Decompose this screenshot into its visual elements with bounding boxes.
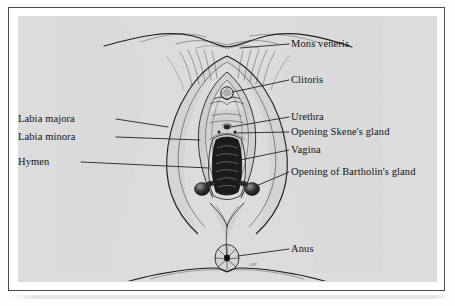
figure-plate: ART Mons veneris Clitoris Urethra Openin…	[0, 0, 455, 306]
label-mons-veneris: Mons veneris	[291, 38, 349, 49]
label-labia-majora: Labia majora	[18, 113, 75, 124]
label-labia-minora: Labia minora	[18, 131, 75, 142]
perineum-shading	[208, 200, 246, 240]
label-opening-skenes-gland: Opening Skene's gland	[291, 126, 389, 137]
vaginal-opening	[212, 137, 242, 195]
label-urethra: Urethra	[291, 111, 324, 122]
anatomical-drawing: ART	[0, 0, 455, 306]
label-anus: Anus	[291, 243, 314, 254]
label-hymen: Hymen	[18, 156, 49, 167]
anus	[215, 245, 239, 272]
label-opening-bartholins-gland: Opening of Bartholin's gland	[291, 166, 416, 177]
label-clitoris: Clitoris	[291, 74, 323, 85]
artist-signature: ART	[249, 262, 258, 267]
label-vagina: Vagina	[291, 144, 321, 155]
leader-anus	[238, 249, 289, 256]
